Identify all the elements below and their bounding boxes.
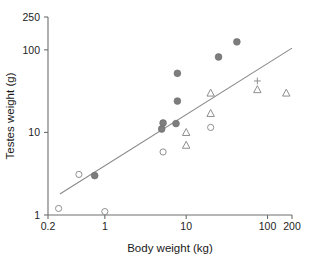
data-point-open-circle bbox=[76, 171, 82, 177]
y-tick-label: 1 bbox=[34, 209, 40, 221]
data-point-plus bbox=[254, 78, 261, 85]
data-markers-group bbox=[56, 38, 290, 214]
x-tick-label: 0.2 bbox=[41, 220, 56, 232]
data-point-filled-circle bbox=[215, 54, 222, 61]
data-point-filled-circle bbox=[158, 126, 165, 133]
x-tick-label: 10 bbox=[180, 220, 192, 232]
y-tick-label: 100 bbox=[22, 44, 40, 56]
data-point-open-circle bbox=[160, 149, 166, 155]
plot-canvas: 0.2110100200110100250 Body weight (kg) T… bbox=[0, 0, 310, 260]
x-tick-label: 200 bbox=[283, 220, 301, 232]
data-point-filled-circle bbox=[160, 120, 167, 127]
data-point-open-triangle bbox=[283, 89, 290, 96]
data-point-open-triangle bbox=[254, 86, 261, 93]
data-point-open-circle bbox=[56, 205, 62, 211]
x-axis-title: Body weight (kg) bbox=[127, 242, 213, 254]
data-point-open-circle bbox=[102, 208, 108, 214]
data-point-filled-circle bbox=[173, 120, 180, 127]
data-point-open-triangle bbox=[182, 129, 189, 136]
x-tick-label: 100 bbox=[259, 220, 277, 232]
data-point-open-triangle bbox=[207, 89, 214, 96]
scatter-plot-figure: 0.2110100200110100250 Body weight (kg) T… bbox=[0, 0, 310, 260]
data-point-filled-circle bbox=[174, 70, 181, 77]
y-tick-label: 250 bbox=[22, 11, 40, 23]
x-tick-label: 1 bbox=[102, 220, 108, 232]
axes-group bbox=[48, 17, 292, 215]
data-point-filled-circle bbox=[91, 172, 98, 179]
data-point-open-triangle bbox=[182, 141, 189, 148]
y-axis-title: Testes weight (g) bbox=[4, 72, 16, 159]
y-tick-label: 10 bbox=[28, 126, 40, 138]
data-point-filled-circle bbox=[174, 98, 181, 105]
data-point-open-triangle bbox=[207, 110, 214, 117]
tick-marks-group bbox=[44, 17, 292, 219]
data-point-filled-circle bbox=[233, 38, 240, 45]
data-point-open-circle bbox=[208, 124, 214, 130]
